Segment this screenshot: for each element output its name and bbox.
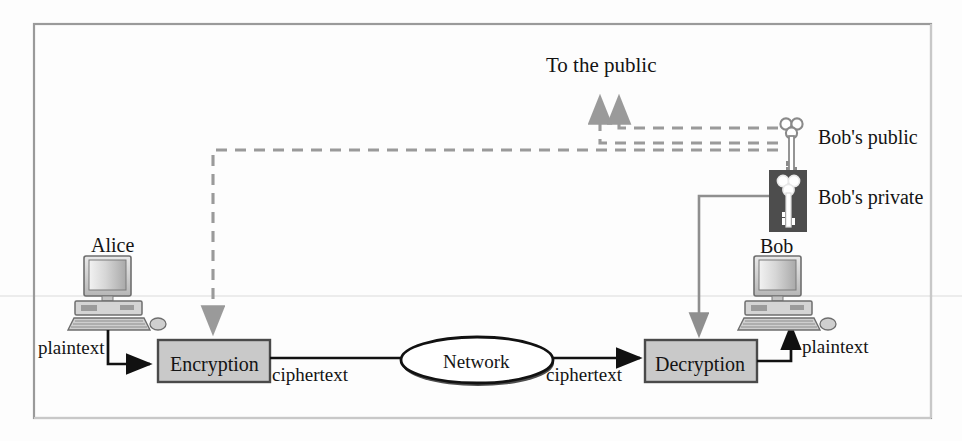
- diagram-canvas: To the public Alice Bob Bob's public Bob…: [0, 0, 962, 441]
- label-bobs-private-key: Bob's private: [818, 186, 923, 209]
- label-decryption: Decryption: [655, 353, 745, 376]
- label-bobs-public-key: Bob's public: [818, 126, 918, 149]
- label-ciphertext-right: ciphertext: [546, 364, 622, 386]
- encryption-flow-diagram: [0, 0, 962, 441]
- label-encryption: Encryption: [170, 353, 259, 376]
- bobs-private-key-icon: [769, 170, 807, 232]
- label-alice: Alice: [91, 234, 134, 257]
- label-to-the-public: To the public: [546, 53, 657, 78]
- label-plaintext-right: plaintext: [802, 336, 868, 358]
- label-network: Network: [443, 351, 509, 373]
- label-plaintext-left: plaintext: [38, 337, 104, 359]
- scan-artifact-line: [0, 295, 962, 297]
- label-bob: Bob: [760, 235, 793, 258]
- label-ciphertext-left: ciphertext: [272, 364, 348, 386]
